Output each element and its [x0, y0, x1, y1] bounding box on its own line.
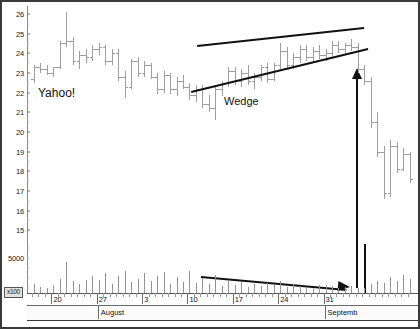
price-bar-open-tick: [44, 69, 47, 70]
x-axis-upper-tick: [222, 288, 223, 293]
price-bar-close-tick: [411, 179, 414, 180]
y-axis-tick-label: 21: [16, 108, 24, 117]
price-bar: [112, 49, 113, 65]
y-axis-tick-mark: [27, 92, 30, 93]
price-bar-open-tick: [407, 154, 410, 155]
price-bar: [280, 43, 281, 69]
x-axis-minor-tick: [168, 293, 169, 297]
y-axis-minor-tick: [27, 141, 29, 142]
x-axis-minor-tick: [311, 293, 312, 297]
x-axis-upper-tick: [215, 288, 216, 293]
x-axis-minor-tick: [291, 293, 292, 297]
x-axis-upper-tick: [164, 288, 165, 293]
x-axis-minor-tick: [103, 293, 104, 297]
y-axis-tick-mark: [27, 230, 30, 231]
price-bar: [92, 45, 93, 61]
x-axis-upper-tick: [40, 288, 41, 293]
x-axis-upper-tick: [79, 288, 80, 293]
x-axis-upper-tick: [241, 288, 242, 293]
x-axis-upper-tick: [60, 288, 61, 293]
price-bar-open-tick: [362, 69, 365, 70]
price-bar-open-tick: [135, 61, 138, 62]
price-bar-open-tick: [381, 152, 384, 153]
y-axis-tick-mark: [27, 151, 30, 152]
price-bar: [338, 41, 339, 53]
x-axis-minor-tick: [129, 293, 130, 297]
x-axis-minor-tick: [226, 293, 227, 297]
x-axis-upper-tick: [332, 288, 333, 293]
x-axis-upper-tick: [92, 288, 93, 293]
x-axis-upper-tick: [47, 288, 48, 293]
x-axis-upper-tick: [358, 288, 359, 293]
price-bar-open-tick: [401, 169, 404, 170]
x-axis-upper-tick: [189, 285, 190, 293]
volume-axis-minor-tick: [27, 288, 29, 289]
price-bar: [99, 43, 100, 55]
price-bar-open-tick: [388, 193, 391, 194]
x-axis-minor-tick: [375, 293, 376, 297]
price-bar-open-tick: [161, 89, 164, 90]
x-axis-minor-tick: [90, 293, 91, 297]
price-bar-open-tick: [109, 61, 112, 62]
x-axis-minor-tick: [64, 293, 65, 297]
price-bar-open-tick: [355, 47, 358, 48]
price-bar-open-tick: [213, 108, 216, 109]
y-axis-minor-tick: [27, 82, 29, 83]
x-axis-minor-tick: [155, 293, 156, 297]
price-bar: [403, 148, 404, 172]
x-axis-upper-tick: [86, 288, 87, 293]
x-axis-minor-tick: [362, 293, 363, 297]
y-axis-tick-label: 18: [16, 167, 24, 176]
y-axis: 2625242322212019181716155000: [2, 2, 28, 298]
x-axis-minor-tick: [349, 293, 350, 297]
price-bar: [332, 41, 333, 57]
x-axis-minor-tick: [382, 293, 383, 297]
price-bar: [60, 41, 61, 69]
x-axis-upper-tick: [112, 288, 113, 293]
x-axis-upper-tick: [138, 288, 139, 293]
x-axis-upper-tick: [105, 288, 106, 293]
x-axis-minor-tick: [388, 293, 389, 297]
price-bar-open-tick: [51, 73, 54, 74]
x-axis-upper-tick: [410, 288, 411, 293]
x-axis-upper-tick: [364, 288, 365, 293]
y-axis-tick-label: 16: [16, 206, 24, 215]
x-axis-upper-tick: [345, 288, 346, 293]
x-axis-minor-tick: [110, 293, 111, 297]
price-bar: [306, 45, 307, 61]
x-axis-minor-tick: [181, 293, 182, 297]
x-axis-minor-tick: [45, 293, 46, 297]
x-axis-upper-tick: [235, 285, 236, 293]
x-axis-upper-tick: [118, 288, 119, 293]
price-bar-open-tick: [349, 45, 352, 46]
x-axis-upper-tick: [261, 288, 262, 293]
y-axis-minor-tick: [27, 122, 29, 123]
x-axis-minor-tick: [395, 293, 396, 297]
price-bar-open-tick: [180, 81, 183, 82]
y-axis-minor-tick: [27, 102, 29, 103]
y-axis-tick-mark: [27, 33, 30, 34]
x-axis-minor-tick: [136, 293, 137, 297]
x-axis-minor-tick: [408, 293, 409, 297]
x-axis-minor-tick: [317, 293, 318, 297]
y-axis-minor-tick: [27, 200, 29, 201]
x-axis-minor-tick: [343, 293, 344, 297]
x-axis-minor-tick: [175, 293, 176, 297]
price-bar-open-tick: [323, 55, 326, 56]
x-axis-upper-tick: [397, 288, 398, 293]
x-axis-minor-tick: [298, 293, 299, 297]
x-axis-upper-tick: [228, 288, 229, 293]
x-axis-upper-tick: [274, 288, 275, 293]
x-axis-upper-tick: [326, 285, 327, 293]
x-axis-upper-tick: [351, 288, 352, 293]
volume-axis-minor-tick: [27, 258, 29, 259]
x-axis-major-tick: [97, 293, 98, 304]
price-bar-open-tick: [336, 45, 339, 46]
x-axis-upper-tick: [196, 288, 197, 293]
price-bar-open-tick: [284, 51, 287, 52]
x-axis-minor-tick: [116, 293, 117, 297]
price-bar-open-tick: [193, 95, 196, 96]
x-axis-minor-tick: [336, 293, 337, 297]
annotation-label-wedge: Wedge: [224, 95, 259, 107]
price-bar-open-tick: [38, 67, 41, 68]
